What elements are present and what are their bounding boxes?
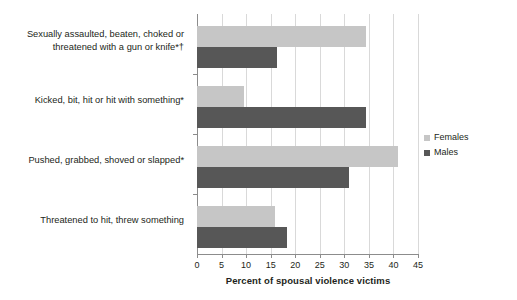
category-label: Threatened to hit, threw something <box>0 214 184 227</box>
x-axis-tick <box>418 254 419 258</box>
bar-females-2 <box>197 146 398 167</box>
x-axis-tick <box>246 254 247 258</box>
x-axis-tick-label: 45 <box>406 260 430 271</box>
x-axis-tick <box>271 254 272 258</box>
category-label: Pushed, grabbed, shoved or slapped* <box>0 154 184 167</box>
gridline <box>320 14 321 254</box>
category-tick <box>193 134 197 135</box>
legend-item-males: Males <box>424 145 469 160</box>
x-axis-line <box>197 254 419 255</box>
x-axis-tick <box>344 254 345 258</box>
x-axis-tick <box>295 254 296 258</box>
x-axis-tick-label: 35 <box>357 260 381 271</box>
bar-males-3 <box>197 227 287 248</box>
x-axis-tick-label: 10 <box>234 260 258 271</box>
category-label: Sexually assaulted, beaten, choked or th… <box>0 28 184 54</box>
x-axis-title: Percent of spousal violence victims <box>197 275 419 286</box>
x-axis-tick <box>369 254 370 258</box>
category-axis-labels: Sexually assaulted, beaten, choked or th… <box>0 14 192 254</box>
x-axis-tick-label: 30 <box>332 260 356 271</box>
bar-males-0 <box>197 47 277 68</box>
x-axis-tick <box>222 254 223 258</box>
category-label: Kicked, bit, hit or hit with something* <box>0 94 184 107</box>
bar-females-3 <box>197 206 275 227</box>
bar-chart: Sexually assaulted, beaten, choked or th… <box>0 0 517 300</box>
legend-swatch-icon <box>424 135 430 141</box>
x-axis-tick-label: 0 <box>185 260 209 271</box>
x-axis-tick-label: 25 <box>308 260 332 271</box>
plot-area <box>197 14 418 254</box>
category-tick <box>193 194 197 195</box>
bar-males-1 <box>197 107 366 128</box>
x-axis-tick-label: 20 <box>283 260 307 271</box>
gridline <box>369 14 370 254</box>
legend-item-females: Females <box>424 130 469 145</box>
gridline <box>344 14 345 254</box>
gridline <box>418 14 419 254</box>
bar-females-0 <box>197 26 366 47</box>
legend: Females Males <box>424 130 469 160</box>
bar-females-1 <box>197 86 244 107</box>
x-axis-tick-label: 5 <box>210 260 234 271</box>
gridline <box>393 14 394 254</box>
x-axis-tick <box>393 254 394 258</box>
legend-label: Males <box>434 145 458 160</box>
x-axis-tick-label: 15 <box>259 260 283 271</box>
x-axis-tick-label: 40 <box>381 260 405 271</box>
bar-males-2 <box>197 167 349 188</box>
legend-swatch-icon <box>424 150 430 156</box>
gridline <box>295 14 296 254</box>
legend-label: Females <box>434 130 469 145</box>
x-axis-tick <box>197 254 198 258</box>
x-axis-tick <box>320 254 321 258</box>
category-tick <box>193 74 197 75</box>
